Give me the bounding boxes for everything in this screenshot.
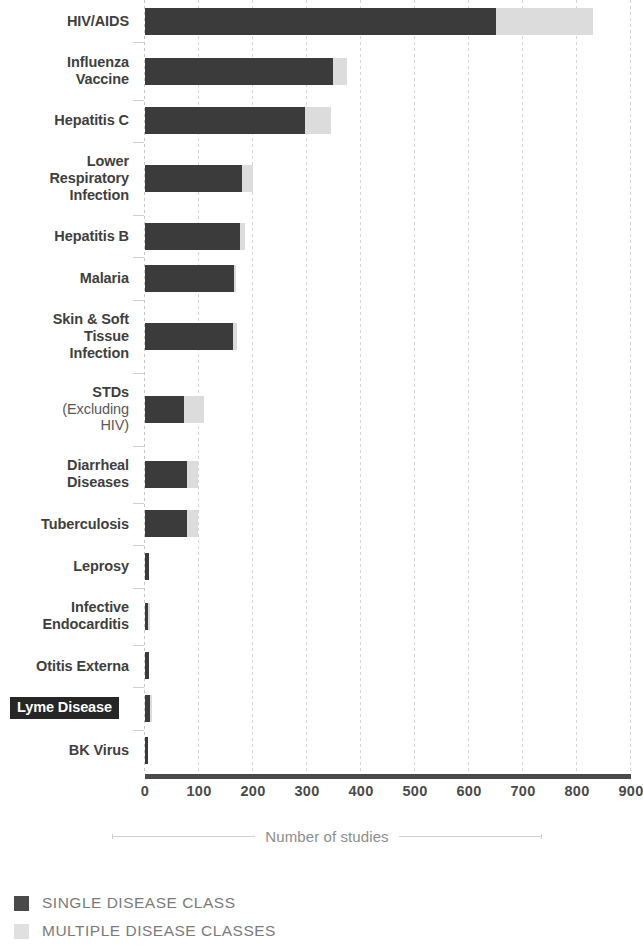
stacked-bar-hepatitis-c <box>145 107 331 134</box>
bar-segment-single <box>145 8 496 35</box>
stacked-bar-diarrheal-diseases <box>145 461 198 488</box>
bar-row: InfluenzaVaccine <box>0 42 631 99</box>
category-label-influenza-vaccine: InfluenzaVaccine <box>0 54 137 88</box>
category-label-line: Malaria <box>0 270 129 287</box>
bar-row: LowerRespiratoryInfection <box>0 142 631 215</box>
category-label-line: Endocarditis <box>0 616 129 633</box>
plot-area: HIV/AIDSInfluenzaVaccineHepatitis CLower… <box>0 0 631 790</box>
bar-track <box>137 730 631 772</box>
x-axis-title: Number of studies <box>112 828 542 845</box>
legend-swatch-single-disease-class <box>14 896 29 911</box>
bar-row: BK Virus <box>0 730 631 772</box>
bar-segment-single <box>145 396 184 423</box>
bar-track <box>137 215 631 257</box>
bar-track <box>137 100 631 142</box>
stacked-bar-lyme-disease <box>145 695 152 722</box>
bar-segment-multiple <box>305 107 331 134</box>
x-tick-label: 300 <box>295 783 320 799</box>
bar-track <box>137 257 631 299</box>
bar-segment-multiple <box>242 165 253 192</box>
bar-segment-single <box>145 323 233 350</box>
category-label-line: Lower <box>0 153 129 170</box>
bar-track <box>137 545 631 587</box>
axis-title-rule-right <box>399 836 542 837</box>
bar-segment-multiple <box>187 510 198 537</box>
bar-row: HIV/AIDS <box>0 0 631 42</box>
stacked-bar-malaria <box>145 265 236 292</box>
bar-track <box>137 0 631 42</box>
category-label-tuberculosis: Tuberculosis <box>0 516 137 533</box>
category-label-line: Tuberculosis <box>0 516 129 533</box>
category-label-line: Diseases <box>0 474 129 491</box>
bar-segment-multiple <box>234 265 236 292</box>
bar-track <box>137 588 631 645</box>
bar-segment-multiple <box>496 8 593 35</box>
bar-rows: HIV/AIDSInfluenzaVaccineHepatitis CLower… <box>0 0 631 772</box>
stacked-bar-infective-endocarditis <box>145 603 150 630</box>
bar-track <box>137 142 631 215</box>
category-label-line: Otitis Externa <box>0 658 129 675</box>
bar-segment-multiple <box>333 58 348 85</box>
legend-label-multiple-disease-classes: MULTIPLE DISEASE CLASSES <box>42 922 276 940</box>
bar-segment-single <box>145 737 148 764</box>
bar-segment-multiple <box>233 323 237 350</box>
bar-row: Hepatitis B <box>0 215 631 257</box>
bar-segment-single <box>145 107 305 134</box>
category-label-line: Tissue <box>0 328 129 345</box>
bar-segment-multiple <box>184 396 204 423</box>
category-label-leprosy: Leprosy <box>0 558 137 575</box>
category-label-line: Infection <box>0 187 129 204</box>
category-label-hepatitis-c: Hepatitis C <box>0 112 137 129</box>
category-label-line: Respiratory <box>0 170 129 187</box>
x-tick-label: 200 <box>241 783 266 799</box>
bar-row: Malaria <box>0 257 631 299</box>
bar-segment-multiple <box>240 223 245 250</box>
bar-segment-single <box>145 165 242 192</box>
legend-label-single-disease-class: SINGLE DISEASE CLASS <box>42 894 236 912</box>
bar-track <box>137 373 631 446</box>
category-label-line: HIV/AIDS <box>0 13 129 30</box>
x-tick-label: 800 <box>565 783 590 799</box>
stacked-bar-lower-respiratory-infection <box>145 165 253 192</box>
category-label-line: Infective <box>0 599 129 616</box>
legend-item-multiple-disease-classes: MULTIPLE DISEASE CLASSES <box>14 917 276 945</box>
x-axis-line <box>145 774 631 779</box>
stacked-bar-hiv-aids <box>145 8 593 35</box>
category-label-line: Infection <box>0 345 129 362</box>
category-label-malaria: Malaria <box>0 270 137 287</box>
bar-row: Tuberculosis <box>0 503 631 545</box>
bar-segment-single <box>145 652 149 679</box>
category-label-line: (Excluding <box>0 401 129 418</box>
bar-row: Skin & SoftTissueInfection <box>0 300 631 373</box>
x-tick-label: 700 <box>511 783 536 799</box>
x-tick-label: 100 <box>187 783 212 799</box>
bar-segment-single <box>145 510 187 537</box>
bar-track <box>137 300 631 373</box>
stacked-bar-leprosy <box>145 553 149 580</box>
category-label-line: STDs <box>0 384 129 401</box>
bar-segment-multiple <box>187 461 198 488</box>
category-label-diarrheal-diseases: DiarrhealDiseases <box>0 457 137 491</box>
bar-segment-single <box>145 553 149 580</box>
category-label-stds-excluding-hiv: STDs(ExcludingHIV) <box>0 384 137 434</box>
bar-track <box>137 503 631 545</box>
bar-row: Otitis Externa <box>0 645 631 687</box>
legend-item-single-disease-class: SINGLE DISEASE CLASS <box>14 889 276 917</box>
stacked-bar-otitis-externa <box>145 652 149 679</box>
bar-segment-single <box>145 265 234 292</box>
bar-row: STDs(ExcludingHIV) <box>0 373 631 446</box>
category-label-line: Diarrheal <box>0 457 129 474</box>
axis-title-label: Number of studies <box>265 828 388 845</box>
stacked-bar-hepatitis-b <box>145 223 245 250</box>
category-label-otitis-externa: Otitis Externa <box>0 658 137 675</box>
x-tick-label: 600 <box>457 783 482 799</box>
category-label-line: Influenza <box>0 54 129 71</box>
stacked-bar-influenza-vaccine <box>145 58 347 85</box>
bar-track <box>137 645 631 687</box>
bar-segment-single <box>145 461 187 488</box>
bar-track <box>137 42 631 99</box>
category-label-line: Hepatitis B <box>0 228 129 245</box>
stacked-bar-skin-soft-tissue-infection <box>145 323 237 350</box>
x-tick-label: 500 <box>403 783 428 799</box>
